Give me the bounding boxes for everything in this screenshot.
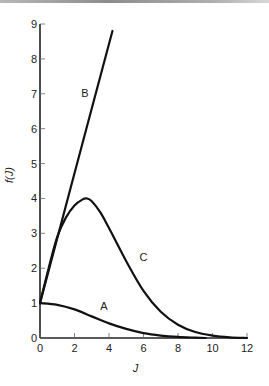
y-tick-label: 6: [31, 123, 37, 135]
series-line-a: [40, 303, 206, 338]
y-tick-label: 8: [31, 53, 37, 65]
y-tick-label: 3: [31, 227, 37, 239]
curve-label-c: C: [140, 251, 148, 263]
y-tick-label: 2: [31, 262, 37, 274]
series-line-c: [40, 198, 247, 338]
x-tick-label: 4: [106, 342, 112, 354]
y-tick-label: 9: [31, 18, 37, 30]
chart: 0123456789024681012Jf(J) ABC: [0, 0, 269, 386]
x-axis-label: J: [132, 362, 139, 374]
series-group: [40, 31, 247, 338]
x-tick-label: 6: [140, 342, 146, 354]
x-tick-label: 2: [71, 342, 77, 354]
x-tick-label: 8: [175, 342, 181, 354]
curve-label-a: A: [100, 300, 108, 312]
curve-label-b: B: [81, 87, 88, 99]
y-axis-label: f(J): [3, 167, 15, 183]
y-tick-label: 1: [31, 297, 37, 309]
y-tick-label: 4: [31, 192, 37, 204]
axes: 0123456789024681012Jf(J): [3, 18, 253, 374]
y-tick-label: 5: [31, 158, 37, 170]
x-tick-label: 0: [37, 342, 43, 354]
y-tick-label: 7: [31, 88, 37, 100]
x-tick-label: 12: [241, 342, 253, 354]
x-tick-label: 10: [206, 342, 218, 354]
